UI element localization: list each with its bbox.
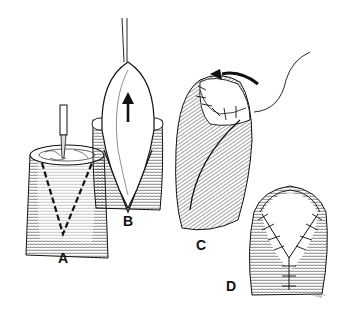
panel-label-a: A [58, 251, 68, 265]
panel-label-d: D [226, 279, 236, 293]
artist-signature: ~sig~ [312, 292, 326, 298]
panel-b-finger [92, 18, 163, 212]
panel-label-b: B [123, 214, 133, 228]
panel-d-finger [249, 186, 327, 295]
panel-label-c: C [196, 238, 206, 252]
surgical-illustration [0, 0, 344, 316]
